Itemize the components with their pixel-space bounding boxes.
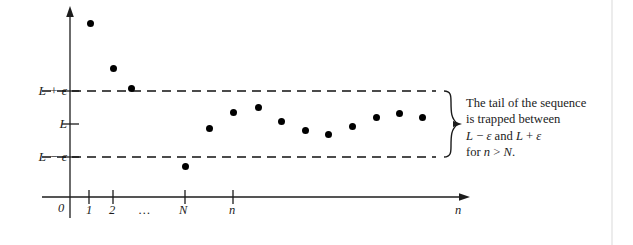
annotation-for: for bbox=[466, 145, 481, 159]
annotation-N-var: N bbox=[504, 145, 512, 159]
data-point bbox=[349, 123, 356, 130]
annotation-text: The tail of the sequence is trapped betw… bbox=[466, 95, 626, 160]
data-point bbox=[110, 65, 117, 72]
annotation-n-var: n bbox=[484, 145, 490, 159]
annotation-and: and bbox=[495, 129, 513, 143]
y-axis bbox=[66, 6, 74, 218]
annotation-L-minus: L bbox=[466, 129, 473, 143]
y-label-upper-epsilon: L + ε bbox=[39, 84, 67, 98]
annotation-epsilon-1: ε bbox=[486, 129, 491, 143]
annotation-period: . bbox=[512, 145, 515, 159]
data-point bbox=[373, 114, 380, 121]
x-tick-label-1: 1 bbox=[86, 204, 92, 217]
x-tick-label-N: N bbox=[179, 204, 187, 217]
data-point bbox=[206, 125, 213, 132]
epsilon-band-lines bbox=[42, 91, 436, 157]
annotation-line-3: L − ε and L + ε bbox=[466, 128, 626, 144]
data-point bbox=[419, 114, 426, 121]
sequence-convergence-figure: L + ε L L − ε 0 1 2 … N n n The tail of … bbox=[0, 0, 633, 245]
data-point bbox=[325, 131, 332, 138]
data-point bbox=[396, 110, 403, 117]
y-label-lower-epsilon: L − ε bbox=[39, 150, 67, 164]
annotation-plus-sign: + bbox=[526, 129, 533, 143]
data-point bbox=[278, 118, 285, 125]
x-tick-label-n: n bbox=[229, 204, 235, 217]
data-point bbox=[302, 127, 309, 134]
x-axis bbox=[42, 193, 470, 201]
x-tick-label-2: 2 bbox=[109, 204, 115, 217]
data-point bbox=[182, 163, 189, 170]
annotation-L-plus: L bbox=[516, 129, 523, 143]
annotation-minus-sign: − bbox=[476, 129, 483, 143]
data-point bbox=[87, 20, 94, 27]
annotation-line-2: is trapped between bbox=[466, 111, 626, 127]
annotation-epsilon-2: ε bbox=[536, 129, 541, 143]
x-tick-label-ellipsis: … bbox=[138, 204, 151, 217]
annotation-line-1: The tail of the sequence bbox=[466, 95, 626, 111]
data-point bbox=[255, 104, 262, 111]
annotation-line-4: for n > N. bbox=[466, 144, 626, 160]
x-axis-name: n bbox=[455, 204, 461, 217]
brace-icon bbox=[444, 91, 462, 157]
data-point bbox=[128, 85, 135, 92]
annotation-gt-sign: > bbox=[493, 145, 500, 159]
data-point bbox=[230, 109, 237, 116]
y-label-limit: L bbox=[59, 117, 67, 131]
x-tick-label-0: 0 bbox=[58, 202, 64, 215]
